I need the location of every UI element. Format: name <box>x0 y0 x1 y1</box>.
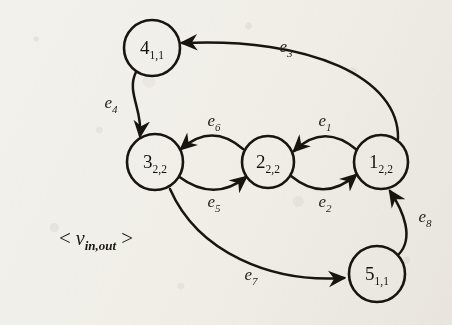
edge-subscript-e5: 5 <box>215 202 221 214</box>
node-label-2: 22,2 <box>256 151 280 175</box>
node-subscript-5: 1,1 <box>375 275 389 287</box>
legend-notation: < vin,out > <box>59 226 133 254</box>
legend-subscript: in,out <box>85 238 116 253</box>
edge-subscript-e2: 2 <box>326 202 332 214</box>
edge-label-e1: e1 <box>318 111 331 132</box>
edge-path-e6 <box>181 136 243 150</box>
edge-path-e5 <box>178 176 246 190</box>
edge-subscript-e8: 8 <box>426 217 432 229</box>
edge-label-e5: e5 <box>207 192 220 213</box>
edge-path-e2 <box>291 175 356 189</box>
node-subscript-2: 2,2 <box>266 163 280 175</box>
legend-open-bracket: < <box>59 226 71 250</box>
edge-label-e2: e2 <box>318 192 331 213</box>
node-subscript-3: 2,2 <box>153 163 167 175</box>
edge-label-e8: e8 <box>418 207 431 228</box>
edge-path-e4 <box>133 72 141 136</box>
edge-label-e6: e6 <box>207 111 220 132</box>
edge-subscript-e1: 1 <box>326 121 332 133</box>
edge-subscript-e3: 3 <box>287 47 293 59</box>
edge-path-e1 <box>294 136 357 151</box>
node-label-5: 51,1 <box>365 263 389 287</box>
edge-label-e4: e4 <box>104 93 117 114</box>
node-label-3: 32,2 <box>143 151 167 175</box>
node-subscript-1: 2,2 <box>379 163 393 175</box>
edge-subscript-e6: 6 <box>215 121 221 133</box>
edge-subscript-e4: 4 <box>112 103 118 115</box>
edge-subscript-e7: 7 <box>252 275 258 287</box>
legend-close-bracket: > <box>121 226 133 250</box>
edge-path-e8 <box>390 191 406 254</box>
node-label-4: 41,1 <box>140 37 164 61</box>
legend-variable: v <box>76 227 85 249</box>
edge-label-e3: e3 <box>279 37 292 58</box>
node-label-1: 12,2 <box>369 151 393 175</box>
node-subscript-4: 1,1 <box>150 49 164 61</box>
edge-label-e7: e7 <box>244 265 257 286</box>
